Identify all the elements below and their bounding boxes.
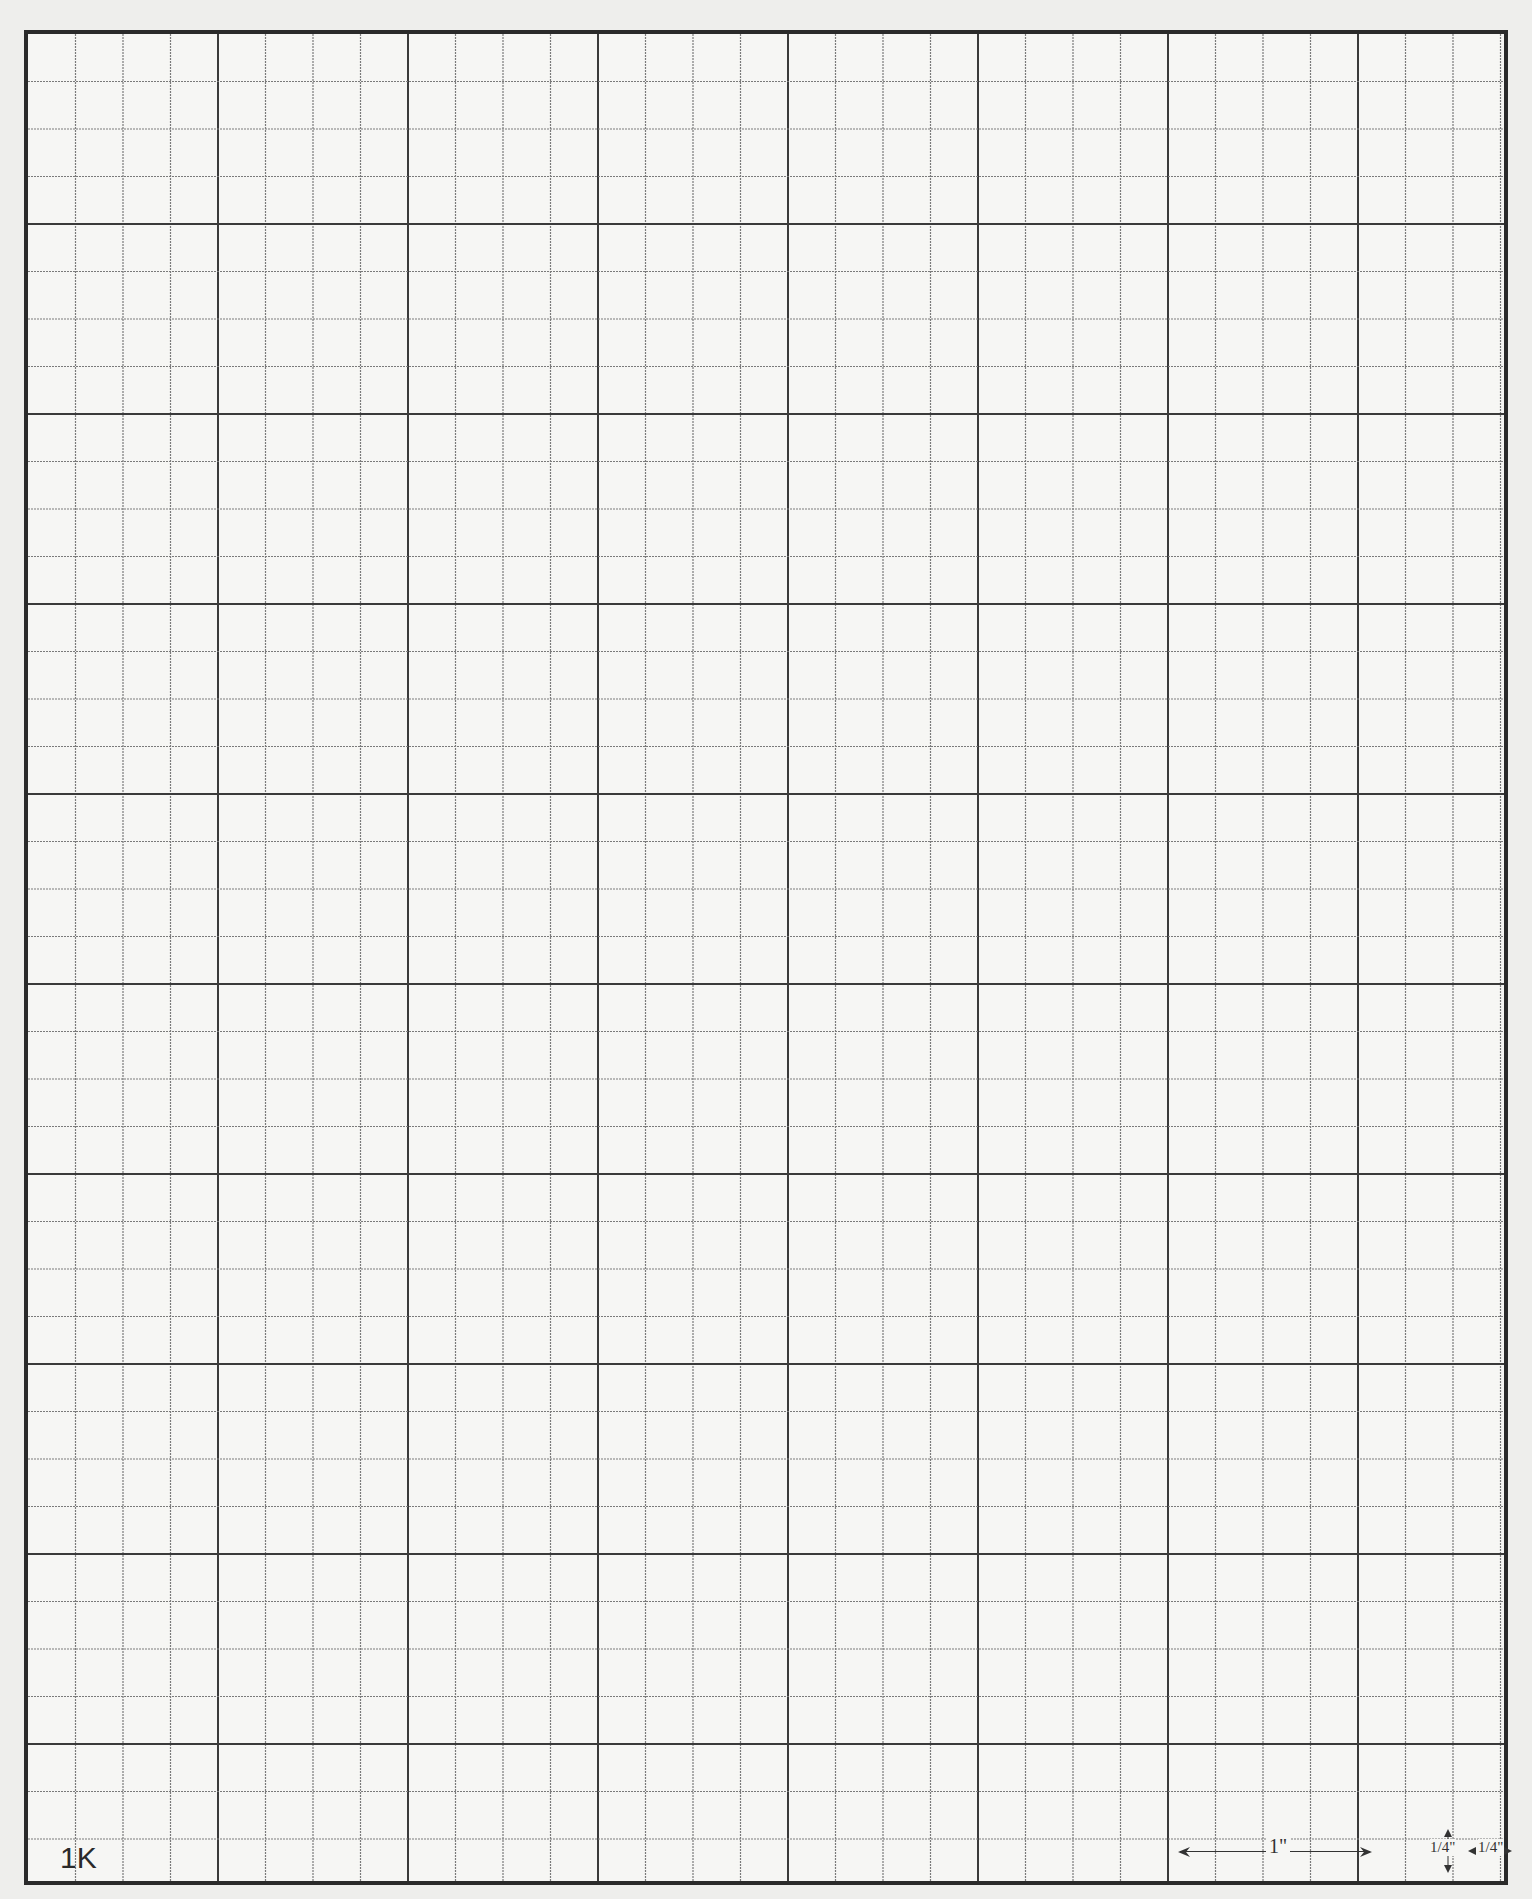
quarter-vertical-label: 1/4"	[1430, 1839, 1455, 1856]
arrow-right-icon	[1358, 1845, 1372, 1859]
quarter-inch-vertical-indicator: 1/4"	[1428, 1829, 1468, 1873]
graph-paper-sheet: 1K 1" 1/4" 1/4"	[24, 30, 1508, 1885]
quarter-inch-horizontal-indicator: 1/4"	[1468, 1829, 1512, 1873]
inch-scale-label: 1"	[1266, 1835, 1290, 1858]
arrow-left-icon	[1178, 1845, 1192, 1859]
paper-id-label: 1K	[60, 1841, 97, 1875]
grid-lines	[28, 34, 1504, 1881]
inch-scale-indicator: 1"	[1180, 1841, 1370, 1861]
quarter-horizontal-label: 1/4"	[1478, 1839, 1503, 1856]
